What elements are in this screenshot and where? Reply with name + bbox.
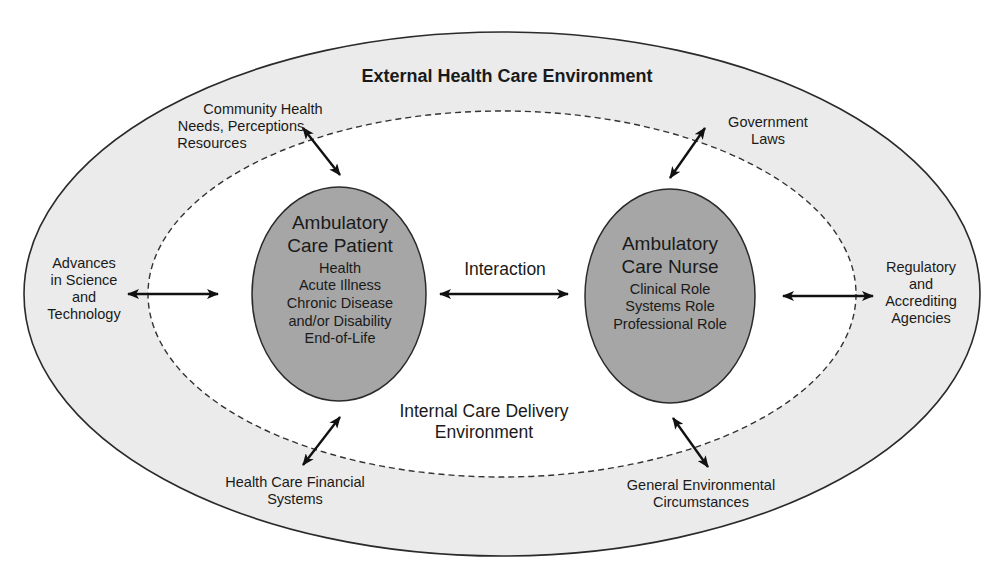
patient-title-line2: Care Patient [287, 235, 393, 258]
nurse-title-line2: Care Nurse [613, 256, 727, 279]
patient-label: Ambulatory Care Patient Health Acute Ill… [287, 212, 393, 348]
nurse-item: Clinical Role [613, 281, 727, 299]
community-health-label: Community Health Needs, Perceptions, Res… [163, 101, 322, 152]
patient-item: Health [287, 260, 393, 278]
diagram-title: External Health Care Environment [361, 66, 652, 87]
patient-title-line1: Ambulatory [287, 212, 393, 235]
internal-environment-label: Internal Care Delivery Environment [399, 401, 568, 442]
interaction-label: Interaction [464, 259, 546, 280]
general-environmental-label: General Environmental Circumstances [627, 477, 775, 511]
nurse-item: Professional Role [613, 316, 727, 334]
patient-item: Chronic Disease [287, 295, 393, 313]
nurse-item: Systems Role [613, 298, 727, 316]
financial-systems-label: Health Care Financial Systems [225, 474, 364, 508]
patient-item: Acute Illness [287, 277, 393, 295]
patient-item: End-of-Life [287, 330, 393, 348]
nurse-title-line1: Ambulatory [613, 233, 727, 256]
advances-science-technology-label: Advances in Science and Technology [47, 255, 120, 323]
government-laws-label: Government Laws [728, 114, 808, 148]
nurse-label: Ambulatory Care Nurse Clinical Role Syst… [613, 233, 727, 334]
patient-item: and/or Disability [287, 313, 393, 331]
regulatory-accrediting-label: Regulatory and Accrediting Agencies [885, 259, 957, 327]
